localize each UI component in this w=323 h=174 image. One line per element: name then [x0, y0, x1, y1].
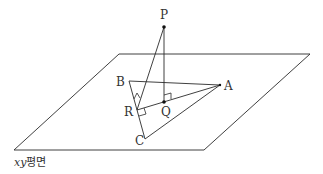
label-r: R: [124, 105, 134, 119]
point-q: [162, 100, 166, 104]
label-c: C: [135, 134, 144, 148]
label-p: P: [160, 8, 168, 22]
segment-pr: [137, 27, 164, 110]
point-p: [162, 25, 166, 29]
segment-ra: [137, 85, 220, 110]
label-b: B: [116, 75, 125, 89]
right-angle-mark-pr: [134, 93, 140, 99]
triangle-abc: [129, 81, 220, 139]
plane-label-var: xy: [14, 156, 27, 169]
plane-label: xy평면: [14, 156, 46, 169]
label-a: A: [223, 79, 233, 93]
right-angle-mark-q: [164, 93, 171, 99]
plane-label-word: 평면: [26, 156, 46, 169]
point-a: [219, 84, 221, 86]
diagram-canvas: P B A R Q C xy평면: [0, 0, 323, 174]
label-q: Q: [161, 105, 171, 119]
